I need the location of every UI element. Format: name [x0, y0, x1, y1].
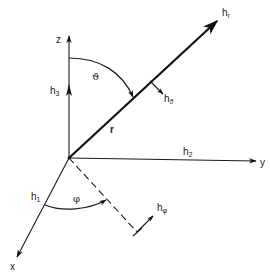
y-axis: y h2 [69, 146, 265, 168]
r-label: r [110, 124, 114, 135]
theta-angle: ϑ [69, 58, 133, 97]
radial-vector: r hr [69, 7, 231, 158]
h-theta-vector: hϑ [150, 81, 174, 105]
y-axis-label: y [260, 157, 265, 168]
z-axis: z h3 [50, 34, 72, 158]
h-phi-vector: hφ [133, 202, 168, 236]
x-axis: x h1 [10, 158, 69, 272]
z-axis-label: z [56, 34, 61, 45]
h-phi-label: hφ [157, 202, 168, 215]
hr-label: hr [222, 7, 231, 19]
phi-angle: φ [45, 193, 106, 209]
h3-label: h3 [50, 85, 60, 97]
phi-label: φ [73, 193, 80, 204]
h2-label: h2 [183, 146, 193, 158]
h-theta-label: hϑ [164, 93, 174, 105]
spherical-coordinates-diagram: z h3 y h2 x h1 r hr ϑ hϑ φ hφ [0, 0, 270, 278]
x-axis-label: x [10, 261, 15, 272]
origin-point [68, 157, 71, 160]
h1-label: h1 [31, 191, 41, 203]
theta-label: ϑ [92, 71, 99, 82]
